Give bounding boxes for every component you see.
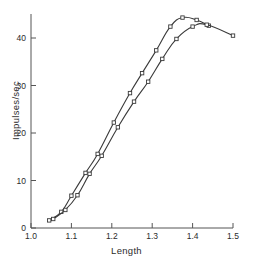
x-tick-label: 1.3 bbox=[146, 231, 158, 241]
data-point-marker bbox=[88, 172, 91, 175]
data-series bbox=[52, 23, 235, 221]
data-point-marker bbox=[231, 34, 234, 37]
y-tick-label: 10 bbox=[8, 176, 26, 186]
axis-lines bbox=[31, 14, 233, 228]
x-tick-label: 1.2 bbox=[106, 231, 118, 241]
data-point-marker bbox=[169, 25, 172, 28]
y-axis-ticks bbox=[31, 38, 36, 228]
chart-figure: Impulses/sec Length 1.01.11.21.31.41.5 0… bbox=[0, 0, 253, 266]
data-point-marker bbox=[181, 16, 184, 19]
data-point-marker bbox=[112, 121, 115, 124]
data-point-marker bbox=[191, 25, 194, 28]
x-tick-label: 1.0 bbox=[25, 231, 37, 241]
data-point-marker bbox=[84, 171, 87, 174]
data-series-layer bbox=[47, 16, 234, 222]
data-point-marker bbox=[161, 57, 164, 60]
data-point-marker bbox=[146, 80, 149, 83]
data-point-marker bbox=[175, 37, 178, 40]
x-axis-title: Length bbox=[0, 245, 253, 256]
data-point-marker bbox=[195, 18, 198, 21]
series-line bbox=[49, 17, 209, 220]
data-point-marker bbox=[96, 152, 99, 155]
data-point-marker bbox=[116, 126, 119, 129]
chart-plot-area bbox=[0, 0, 253, 266]
data-point-marker bbox=[128, 91, 131, 94]
y-tick-label: 0 bbox=[8, 223, 26, 233]
data-point-marker bbox=[100, 154, 103, 157]
x-tick-label: 1.5 bbox=[227, 231, 239, 241]
y-tick-label: 30 bbox=[8, 81, 26, 91]
x-axis-ticks bbox=[31, 223, 233, 228]
data-point-marker bbox=[52, 217, 55, 220]
x-tick-label: 1.4 bbox=[187, 231, 199, 241]
data-point-marker bbox=[76, 194, 79, 197]
series-line bbox=[53, 24, 233, 219]
data-point-marker bbox=[140, 71, 143, 74]
y-tick-label: 40 bbox=[8, 33, 26, 43]
data-point-marker bbox=[132, 100, 135, 103]
data-point-marker bbox=[205, 23, 208, 26]
data-point-marker bbox=[64, 208, 67, 211]
data-point-marker bbox=[155, 49, 158, 52]
data-point-marker bbox=[70, 194, 73, 197]
y-tick-label: 20 bbox=[8, 128, 26, 138]
data-point-marker bbox=[47, 219, 50, 222]
data-series bbox=[47, 16, 210, 222]
x-tick-label: 1.1 bbox=[65, 231, 77, 241]
